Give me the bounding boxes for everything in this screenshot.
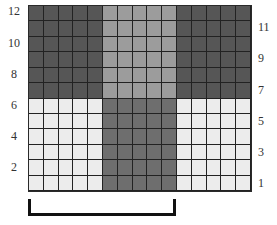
grid-cell: [236, 99, 251, 114]
grid-cell: [44, 21, 59, 36]
grid-cell: [147, 160, 162, 175]
grid-cell: [236, 37, 251, 52]
grid-cell: [118, 21, 133, 36]
grid-cell: [133, 176, 148, 191]
grid-cell: [162, 160, 177, 175]
grid-cell: [207, 160, 222, 175]
grid-cell: [133, 129, 148, 144]
grid-cell: [103, 145, 118, 160]
grid-cell: [44, 37, 59, 52]
grid-cell: [207, 52, 222, 67]
grid-cell: [44, 68, 59, 83]
grid-cell: [162, 145, 177, 160]
grid-cell: [103, 52, 118, 67]
grid-cell: [118, 129, 133, 144]
grid-cell: [118, 37, 133, 52]
grid-cell: [192, 176, 207, 191]
grid-cell: [29, 176, 44, 191]
row-label-9: 9: [258, 52, 264, 64]
grid-cell: [236, 114, 251, 129]
grid-cell: [147, 83, 162, 98]
grid-cell: [88, 176, 103, 191]
row-label-2: 2: [11, 161, 17, 173]
grid-cell: [88, 83, 103, 98]
grid-cell: [88, 21, 103, 36]
grid-cell: [147, 114, 162, 129]
grid-cell: [133, 99, 148, 114]
grid-cell: [133, 114, 148, 129]
grid-cell: [73, 37, 88, 52]
grid-cell: [133, 145, 148, 160]
grid-cell: [73, 52, 88, 67]
grid-cell: [133, 6, 148, 21]
grid-cell: [118, 99, 133, 114]
grid-cell: [207, 21, 222, 36]
grid-cell: [162, 6, 177, 21]
grid-cell: [147, 37, 162, 52]
row-label-11: 11: [258, 21, 270, 33]
grid-cell: [103, 176, 118, 191]
grid-cell: [133, 37, 148, 52]
grid-cell: [221, 37, 236, 52]
grid-cell: [59, 160, 74, 175]
grid-cell: [59, 176, 74, 191]
grid-cell: [162, 68, 177, 83]
grid-cell: [177, 145, 192, 160]
grid-cell: [177, 52, 192, 67]
grid-cell: [162, 52, 177, 67]
row-label-7: 7: [258, 84, 264, 96]
grid-cell: [221, 176, 236, 191]
grid-cell: [88, 68, 103, 83]
grid-cell: [88, 160, 103, 175]
grid-cell: [73, 6, 88, 21]
grid-cell: [207, 68, 222, 83]
grid-cell: [162, 83, 177, 98]
grid-cell: [133, 160, 148, 175]
grid-cell: [207, 83, 222, 98]
grid-cell: [103, 114, 118, 129]
grid-cell: [44, 99, 59, 114]
grid-cell: [236, 129, 251, 144]
grid-cell: [177, 68, 192, 83]
grid-cell: [59, 83, 74, 98]
grid-cell: [177, 160, 192, 175]
grid-cell: [162, 114, 177, 129]
grid-cell: [73, 145, 88, 160]
grid-cell: [88, 99, 103, 114]
grid-cell: [192, 114, 207, 129]
grid-cell: [133, 83, 148, 98]
grid-cell: [29, 99, 44, 114]
grid-cell: [73, 68, 88, 83]
grid-cell: [207, 99, 222, 114]
grid-cell: [88, 52, 103, 67]
grid-cell: [162, 129, 177, 144]
row-label-1: 1: [258, 177, 264, 189]
grid-cell: [29, 160, 44, 175]
grid-cell: [192, 21, 207, 36]
grid-cell: [192, 129, 207, 144]
grid-cell: [103, 129, 118, 144]
grid-cell: [29, 114, 44, 129]
grid-cell: [147, 6, 162, 21]
grid-cell: [73, 114, 88, 129]
grid-cell: [147, 68, 162, 83]
grid-cell: [59, 129, 74, 144]
grid-cell: [73, 176, 88, 191]
grid-cell: [221, 114, 236, 129]
grid-cell: [29, 145, 44, 160]
grid-cell: [118, 52, 133, 67]
grid-cell: [44, 52, 59, 67]
grid-cell: [177, 99, 192, 114]
color-grid: [28, 5, 252, 192]
grid-cell: [103, 21, 118, 36]
grid-cell: [177, 83, 192, 98]
grid-cell: [162, 37, 177, 52]
grid-cell: [147, 99, 162, 114]
grid-cell: [236, 68, 251, 83]
grid-cell: [133, 21, 148, 36]
row-label-6: 6: [11, 99, 17, 111]
row-label-4: 4: [11, 130, 17, 142]
grid-cell: [73, 83, 88, 98]
grid-cell: [192, 83, 207, 98]
grid-cell: [236, 160, 251, 175]
